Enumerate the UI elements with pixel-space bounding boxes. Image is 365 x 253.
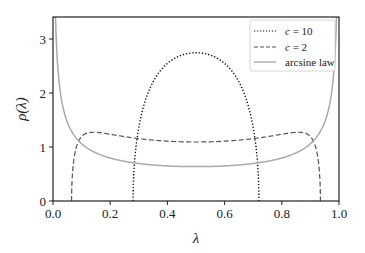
x-tick-label: 1.0 bbox=[331, 206, 347, 221]
legend: c = 10 c = 2 arcsine law bbox=[250, 20, 335, 71]
legend-label-c2: c = 2 bbox=[285, 41, 307, 53]
x-tick-label: 0.8 bbox=[274, 206, 290, 221]
x-tick-label: 0.0 bbox=[45, 206, 61, 221]
x-tick-label: 0.2 bbox=[102, 206, 118, 221]
y-axis-label: ρ(λ) bbox=[13, 97, 30, 122]
y-tick-label: 3 bbox=[40, 32, 47, 47]
x-tick-label: 0.4 bbox=[159, 206, 176, 221]
y-axis-ticks: 0123 bbox=[40, 32, 54, 209]
legend-label-arcsine: arcsine law bbox=[285, 56, 335, 68]
x-tick-label: 0.6 bbox=[216, 206, 233, 221]
density-chart: 0.00.20.40.60.81.0 0123 λ ρ(λ) c = 10 c … bbox=[0, 0, 365, 253]
series-line-1 bbox=[133, 53, 259, 201]
y-tick-label: 2 bbox=[40, 86, 47, 101]
legend-label-c10: c = 10 bbox=[285, 25, 313, 37]
x-axis-label: λ bbox=[192, 230, 200, 246]
y-tick-label: 0 bbox=[40, 194, 47, 209]
y-tick-label: 1 bbox=[40, 140, 47, 155]
x-axis-ticks: 0.00.20.40.60.81.0 bbox=[45, 201, 347, 221]
